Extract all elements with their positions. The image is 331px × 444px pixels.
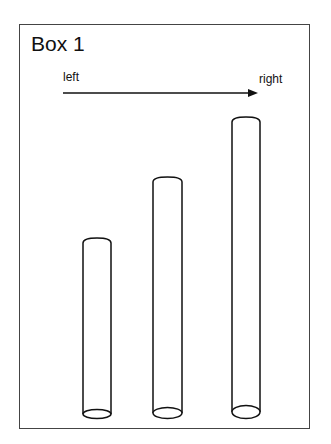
diagram-canvas	[0, 0, 331, 444]
cylinder-3	[232, 117, 260, 419]
direction-arrow-icon	[63, 89, 258, 97]
cylinder-2	[153, 177, 182, 419]
cylinder-1	[83, 238, 111, 419]
